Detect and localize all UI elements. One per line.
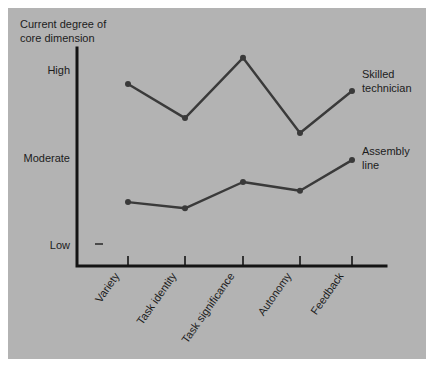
data-point [125, 81, 131, 87]
data-point [182, 115, 188, 121]
chart-page: Current degree of core dimension High Mo… [0, 0, 434, 367]
line-chart: Current degree of core dimension High Mo… [0, 0, 434, 367]
data-point [240, 55, 246, 61]
axis-lines [77, 48, 386, 266]
series-line-skilled-technician [128, 58, 352, 133]
y-tick-label-moderate: Moderate [24, 152, 70, 164]
series-label-skilled-technician-line1: Skilled [362, 68, 394, 80]
x-label-task-significance: Task significance [179, 270, 237, 345]
data-point [349, 157, 355, 163]
data-point [349, 88, 355, 94]
x-label-feedback: Feedback [308, 270, 346, 317]
series-label-assembly-line-line2: line [362, 159, 379, 171]
x-label-autonomy: Autonomy [255, 270, 294, 318]
data-point [240, 179, 246, 185]
series-label-skilled-technician-line2: technician [362, 82, 412, 94]
x-label-variety: Variety [93, 270, 122, 305]
y-tick-label-low: Low [50, 239, 70, 251]
data-point [297, 130, 303, 136]
y-tick-label-high: High [47, 64, 70, 76]
data-point [182, 205, 188, 211]
x-label-task-identity: Task identity [134, 270, 179, 327]
series-line-assembly-line [128, 160, 352, 208]
series-points-skilled-technician [125, 55, 355, 136]
data-point [125, 199, 131, 205]
series-skilled-technician [125, 55, 355, 136]
series-label-assembly-line-line1: Assembly [362, 145, 410, 157]
y-axis-title-line1: Current degree of [20, 18, 107, 30]
data-point [297, 188, 303, 194]
y-axis-title-line2: core dimension [20, 32, 95, 44]
series-assembly-line [125, 157, 355, 211]
